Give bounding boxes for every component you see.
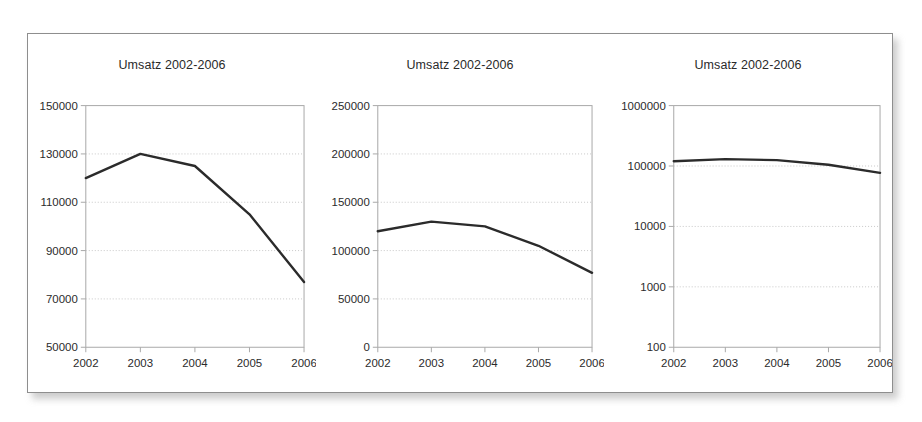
svg-text:90000: 90000 [46, 245, 78, 257]
chart-panel-linear-0-250k: Umsatz 2002-2006 05000010000015000020000… [316, 34, 604, 392]
svg-text:150000: 150000 [40, 100, 78, 112]
svg-text:2003: 2003 [419, 357, 444, 369]
svg-text:200000: 200000 [332, 148, 370, 160]
svg-text:100000: 100000 [332, 245, 370, 257]
svg-text:2004: 2004 [472, 357, 498, 369]
svg-text:2005: 2005 [816, 357, 841, 369]
svg-text:0: 0 [363, 341, 369, 353]
svg-text:2006: 2006 [867, 357, 892, 369]
svg-text:150000: 150000 [332, 196, 370, 208]
svg-text:1000: 1000 [640, 281, 665, 293]
svg-text:2006: 2006 [291, 357, 316, 369]
figure-frame: Umsatz 2002-2006 50000700009000011000013… [27, 33, 893, 393]
chart-panel-log: Umsatz 2002-2006 10010001000010000010000… [604, 34, 892, 392]
svg-text:50000: 50000 [46, 341, 78, 353]
chart-plot-1: 5000070000900001100001300001500002002200… [28, 34, 316, 392]
svg-text:2003: 2003 [128, 357, 153, 369]
svg-text:110000: 110000 [40, 196, 77, 208]
svg-text:100: 100 [647, 341, 666, 353]
svg-text:2002: 2002 [73, 357, 98, 369]
chart-plot-2: 0500001000001500002000002500002002200320… [316, 34, 604, 392]
charts-row: Umsatz 2002-2006 50000700009000011000013… [28, 34, 892, 392]
svg-text:2002: 2002 [365, 357, 390, 369]
svg-text:2005: 2005 [237, 357, 262, 369]
svg-text:100000: 100000 [628, 160, 666, 172]
svg-text:250000: 250000 [332, 100, 370, 112]
svg-text:130000: 130000 [40, 148, 78, 160]
svg-text:2004: 2004 [182, 357, 208, 369]
chart-panel-linear-50k-150k: Umsatz 2002-2006 50000700009000011000013… [28, 34, 316, 392]
svg-text:2002: 2002 [661, 357, 686, 369]
svg-text:10000: 10000 [634, 220, 666, 232]
svg-text:70000: 70000 [46, 293, 78, 305]
svg-text:50000: 50000 [338, 293, 370, 305]
svg-text:1000000: 1000000 [621, 100, 666, 112]
svg-text:2005: 2005 [526, 357, 551, 369]
chart-plot-3: 1001000100001000001000000200220032004200… [604, 34, 892, 392]
svg-text:2004: 2004 [764, 357, 790, 369]
svg-text:2006: 2006 [579, 357, 604, 369]
svg-text:2003: 2003 [713, 357, 738, 369]
